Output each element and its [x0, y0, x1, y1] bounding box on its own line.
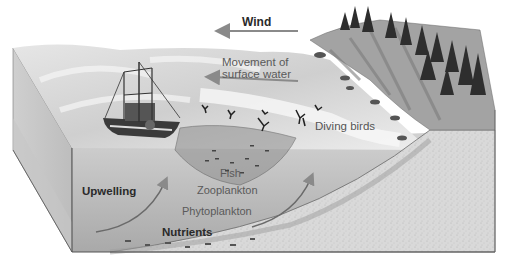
phytoplankton-label: Phytoplankton [182, 205, 252, 217]
surface-water-label-line2: surface water [222, 68, 291, 80]
diagram-illustration [0, 0, 506, 265]
diving-birds-label: Diving birds [315, 120, 375, 132]
zooplankton-label: Zooplankton [197, 184, 258, 196]
upwelling-label: Upwelling [82, 185, 136, 197]
wind-label: Wind [242, 16, 271, 28]
upwelling-diagram: Wind Movement of surface water Diving bi… [0, 0, 506, 265]
fish-label: Fish [220, 167, 241, 179]
nutrients-label: Nutrients [162, 226, 212, 238]
surface-water-label-line1: Movement of [222, 56, 288, 68]
